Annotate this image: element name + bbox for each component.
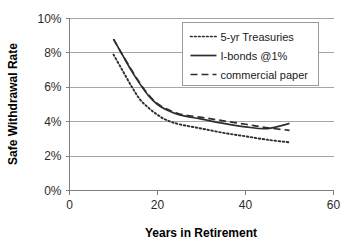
y-tick-label: 4% [44, 115, 62, 129]
y-tick-label: 2% [44, 149, 62, 163]
legend-label-solid: I-bonds @1% [221, 50, 288, 62]
y-tick-label: 8% [44, 46, 62, 60]
x-axis-tick-labels: 0204060 [66, 198, 340, 212]
x-tick-label: 20 [151, 198, 165, 212]
y-tick-label: 6% [44, 80, 62, 94]
y-tick-label: 10% [37, 12, 61, 26]
x-tick-label: 40 [239, 198, 253, 212]
y-tick-label: 0% [44, 184, 62, 198]
legend: 5-yr TreasuriesI-bonds @1%commercial pap… [183, 23, 319, 86]
y-axis-title: Safe Withdrawal Rate [6, 43, 20, 165]
safe-withdrawal-rate-line-chart: 0%2%4%6%8%10% 0204060 5-yr TreasuriesI-b… [0, 0, 353, 247]
x-tick-label: 60 [327, 198, 341, 212]
legend-label-dotted: 5-yr Treasuries [221, 31, 295, 43]
chart-container: 0%2%4%6%8%10% 0204060 5-yr TreasuriesI-b… [0, 0, 353, 247]
x-axis-title: Years in Retirement [145, 226, 257, 240]
x-tick-label: 0 [66, 198, 73, 212]
legend-label-dashed: commercial paper [221, 69, 309, 81]
y-axis-tick-labels: 0%2%4%6%8%10% [37, 12, 61, 198]
